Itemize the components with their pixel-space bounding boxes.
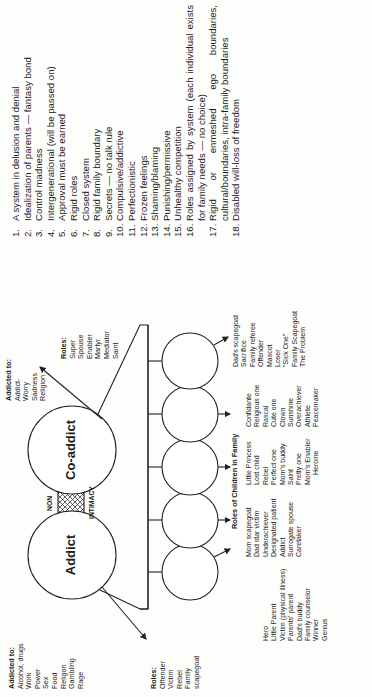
list-item: 18.Disabled will-loss of freedom [230, 5, 242, 237]
list-item: 16.Roles assigned by system (each indivi… [184, 5, 207, 237]
intimacy-label: INTIMACY [88, 486, 95, 519]
list-item: Clown [279, 385, 287, 427]
list-item: Mom scapegoat [245, 499, 253, 557]
list-item: 6.Rigid roles [68, 5, 80, 237]
characteristics-list: 1.A system in delusion and denial 2.Idea… [10, 5, 242, 237]
list-item: "Sick One" [282, 311, 290, 367]
list-item: Dad star victim [253, 499, 261, 557]
child-circle-5 [162, 333, 218, 389]
list-item: Religious one [253, 385, 261, 427]
list-item: Family counselor [304, 569, 312, 641]
children-column-1: Hero Little Parent Victim (physical illn… [262, 569, 329, 641]
list-item: Underachiever [262, 499, 270, 557]
list-item: Genius [321, 569, 329, 641]
list-item: Saint [112, 331, 121, 359]
list-item: 7.Closed system [80, 5, 92, 237]
list-item: Caretaker [295, 499, 303, 557]
list-item: Parents' parent [287, 569, 295, 641]
coaddict-roles: Roles: Super Spouse Enabler Martyr Media… [60, 331, 120, 359]
list-item: 12.Frozen feelings [138, 5, 150, 237]
list-item: 10.Compulsive/addictive [114, 5, 126, 237]
list-item: Religion [39, 359, 48, 401]
addict-addictions: Addicted to: Alcohol, drugs Work Power S… [8, 643, 85, 689]
list-item: Little Parent [270, 569, 278, 641]
list-item: Rage [77, 643, 86, 689]
list-item: Family Scapegoat [291, 311, 299, 367]
list-item: 2.Idealization of parents — fantasy bond [22, 5, 34, 237]
list-item: Rebel [262, 439, 270, 485]
list-item: 13.Shaming/blaming [149, 5, 161, 237]
list-item: Mom's Enabler [304, 439, 312, 485]
list-item: 8.Rigid family boundary [91, 5, 103, 237]
addict-roles: Roles: Offender Victim Rebel Family scap… [150, 656, 202, 689]
child-circle-3 [162, 439, 218, 495]
list-item: Addict [279, 499, 287, 557]
list-item: Perfect one [270, 439, 278, 485]
list-item: Sunshine [287, 385, 295, 427]
list-item: scapegoat [193, 656, 202, 689]
list-item: 3.Control madness [33, 5, 45, 237]
list-item: Heroine [312, 439, 320, 485]
list-item: Mom's buddy [279, 439, 287, 485]
list-item: Mascot [266, 311, 274, 367]
list-item: Dad's scapegoat [232, 311, 240, 367]
list-item: Winner [312, 569, 320, 641]
children-roles-title: Roles of Children in Family [230, 434, 239, 529]
list-item: Saint [287, 439, 295, 485]
list-item: Offender [257, 311, 265, 367]
list-item: Family referee [249, 311, 257, 367]
list-item: 5.Approval must be earned [56, 5, 68, 237]
list-item: Lost child [253, 439, 261, 485]
children-column-3: Little Princess Lost child Rebel Perfect… [245, 439, 321, 485]
list-item: Victim (physical illness) [279, 569, 287, 641]
list-item: 1.A system in delusion and denial [10, 5, 22, 237]
list-item: Little Princess [245, 439, 253, 485]
child-circle-1 [162, 544, 218, 600]
list-item: Hero [262, 569, 270, 641]
list-item: Overachiever [295, 385, 303, 427]
coaddict-addictions: Addicted to: Addict- Worry Sadness Relig… [5, 359, 48, 401]
list-item: 11.Perfectionistic [126, 5, 138, 237]
list-item: 17.Rigid or enmeshed ego boundaries, cul… [207, 5, 230, 237]
non-label: NON [46, 496, 53, 511]
children-column-5: Dad's scapegoat Sacrifice Family referee… [232, 311, 308, 367]
list-item: Confidante [245, 385, 253, 427]
list-item: Dad's buddy [296, 569, 304, 641]
list-item: Designated patient [270, 499, 278, 557]
children-column-4: Confidante Religious one Rascal Cute one… [245, 385, 321, 427]
child-circle-2 [162, 492, 218, 548]
list-item: The Problem [299, 311, 307, 367]
list-item: 14.Punishing/permissive [161, 5, 173, 237]
list-item: 4.Intergenerational (will be passed on) [45, 5, 57, 237]
list-item: Pretty one [295, 439, 303, 485]
child-circle-4 [162, 386, 218, 442]
list-item: Athlete [304, 385, 312, 427]
diagram-page: Addict Co-addict NON INTIMACY Addicted t… [0, 0, 372, 697]
list-item: Peacemaker [312, 385, 320, 427]
children-column-2: Mom scapegoat Dad star victim Underachie… [245, 499, 304, 557]
list-item: Surrogate spouse [287, 499, 295, 557]
list-item: 15.Unhealthy competition [172, 5, 184, 237]
coaddict-label: Co-addict [63, 415, 78, 485]
list-item: 9.Secrets — no talk rule [103, 5, 115, 237]
list-item: Sacrifice [240, 311, 248, 367]
addict-label: Addict [63, 525, 78, 585]
list-item: Loser [274, 311, 282, 367]
list-item: Cute one [270, 385, 278, 427]
list-item: Rascal [262, 385, 270, 427]
